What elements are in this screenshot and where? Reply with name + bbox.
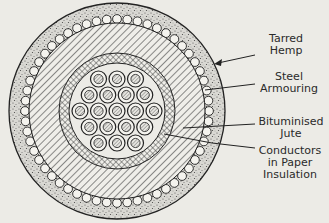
conductor-core — [85, 90, 94, 99]
armour-wire — [102, 15, 111, 24]
conductor-core — [112, 138, 121, 147]
conductor-core — [149, 106, 158, 115]
armour-wire — [102, 198, 111, 207]
conductor-core — [140, 90, 149, 99]
label-tarred-hemp: Tarred Hemp — [258, 33, 314, 57]
conductor-core — [103, 122, 112, 131]
armour-wire — [21, 96, 30, 105]
armour-wire — [123, 15, 132, 24]
conductor-core — [112, 106, 121, 115]
conductor-core — [122, 90, 131, 99]
conductor-core — [75, 106, 84, 115]
conductor-core — [140, 122, 149, 131]
armour-wire — [21, 107, 30, 116]
label-bituminised-jute: Bituminised Jute — [254, 116, 328, 140]
armour-wire — [204, 117, 213, 126]
armour-wire — [205, 107, 214, 116]
conductor-core — [103, 90, 112, 99]
armour-wire — [113, 199, 122, 208]
armour-wire — [21, 117, 30, 126]
conductor-core — [94, 74, 103, 83]
conductor-core — [94, 138, 103, 147]
armour-wire — [204, 96, 213, 105]
label-conductors: Conductors in Paper Insulation — [254, 145, 326, 181]
conductor-core — [85, 122, 94, 131]
leader-tarred-hemp — [218, 55, 255, 63]
armour-wire — [113, 15, 122, 24]
conductor-core — [131, 138, 140, 147]
conductor-core — [131, 74, 140, 83]
conductor-core — [112, 74, 121, 83]
conductor-core — [122, 122, 131, 131]
armour-wire — [123, 198, 132, 207]
label-steel-armouring: Steel Armouring — [256, 71, 322, 95]
conductor-core — [131, 106, 140, 115]
conductor-core — [94, 106, 103, 115]
